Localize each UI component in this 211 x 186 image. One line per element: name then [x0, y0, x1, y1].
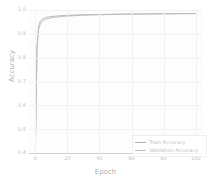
gridline-horizontal — [29, 34, 202, 35]
gridline-vertical — [35, 10, 36, 153]
legend-label-validation: Validation Accuracy — [149, 148, 198, 153]
legend-swatch-train — [135, 142, 146, 143]
y-tick-label: 0.4 — [0, 150, 26, 155]
accuracy-vs-epoch-chart: 0.40.50.60.70.80.91.0 020406080100 Epoch… — [0, 0, 211, 186]
gridline-horizontal — [29, 82, 202, 83]
gridline-vertical — [164, 10, 165, 153]
x-tick-label: 0 — [25, 156, 45, 161]
x-tick-label: 40 — [89, 156, 109, 161]
legend-item-validation[interactable]: Validation Accuracy — [134, 146, 204, 154]
gridline-horizontal — [29, 10, 202, 11]
gridline-vertical — [99, 10, 100, 153]
y-axis-label: Accuracy — [8, 36, 16, 96]
gridline-horizontal — [29, 105, 202, 106]
plot-area — [29, 10, 202, 153]
legend-label-train: Train Accuracy — [149, 140, 185, 145]
gridline-horizontal — [29, 58, 202, 59]
y-tick-label: 1.0 — [0, 7, 26, 12]
y-tick-label: 0.6 — [0, 103, 26, 108]
chart-legend[interactable]: Train Accuracy Validation Accuracy — [132, 135, 207, 157]
legend-item-train[interactable]: Train Accuracy — [134, 138, 204, 146]
x-tick-label: 20 — [57, 156, 77, 161]
gridline-vertical — [67, 10, 68, 153]
gridline-vertical — [132, 10, 133, 153]
x-axis-label: Epoch — [0, 168, 211, 176]
gridline-vertical — [196, 10, 197, 153]
legend-swatch-validation — [135, 150, 146, 151]
gridline-horizontal — [29, 129, 202, 130]
y-tick-label: 0.5 — [0, 127, 26, 132]
